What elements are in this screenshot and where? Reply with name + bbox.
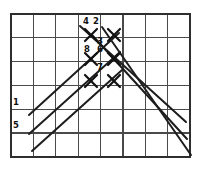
figure-root: 12345678 [0,0,203,170]
point-label-4: 4 [83,16,89,26]
point-label-8: 8 [84,44,90,54]
grid-diagram: 12345678 [0,0,203,170]
point-label-6: 6 [97,44,103,54]
point-label-2: 2 [93,16,99,26]
point-label-1: 1 [13,97,19,107]
point-label-7: 7 [97,62,103,72]
point-label-5: 5 [13,120,19,130]
